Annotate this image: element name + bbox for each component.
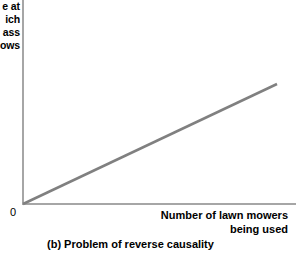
series-line-positive-linear xyxy=(23,84,277,204)
data-line-group xyxy=(0,0,296,205)
x-axis-title-line-2: being used xyxy=(88,223,288,237)
figure-caption: (b) Problem of reverse causality xyxy=(47,237,214,251)
x-axis-title-line-1: Number of lawn mowers xyxy=(88,209,288,223)
plot-area xyxy=(0,0,296,205)
chart-figure: e at ich ass ows 0 Number of lawn mowers… xyxy=(0,0,296,256)
x-axis-title: Number of lawn mowers being used xyxy=(88,209,288,236)
y-axis-title-line-2: ich xyxy=(0,13,20,26)
y-axis-title-line-3: ass xyxy=(0,26,20,39)
y-axis-title: e at ich ass ows xyxy=(0,0,20,52)
y-axis-title-line-4: ows xyxy=(0,39,20,52)
origin-label: 0 xyxy=(10,206,16,219)
y-axis-title-line-1: e at xyxy=(0,0,20,13)
